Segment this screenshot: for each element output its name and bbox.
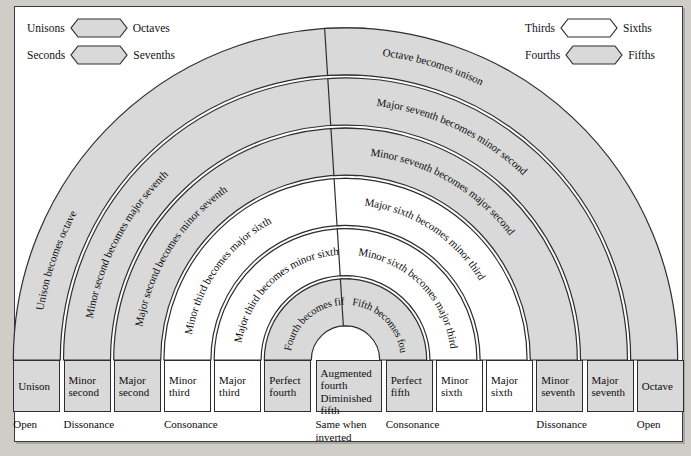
- arc-band-group: [13, 28, 677, 360]
- interval-box-0-label: Unison: [18, 380, 50, 392]
- interval-box-9-label: Majorsixth: [491, 374, 518, 398]
- interval-box-0[interactable]: Unison: [13, 360, 60, 412]
- interval-box-3-label: Minorthird: [169, 374, 197, 398]
- interval-box-3[interactable]: Minorthird: [164, 360, 211, 412]
- interval-box-4[interactable]: Majorthird: [214, 360, 261, 412]
- category-label-4: Consonance: [386, 418, 533, 431]
- interval-box-1-label: Minorsecond: [69, 374, 100, 398]
- category-label-2: Consonance: [164, 418, 311, 431]
- interval-box-11-label: Majorseventh: [592, 374, 626, 398]
- diagram-root: Unisons Octaves Seconds Sevenths Thirds …: [0, 0, 691, 456]
- interval-box-12-label: Octave: [642, 380, 673, 392]
- interval-box-4-label: Majorthird: [219, 374, 246, 398]
- interval-box-7-label: Perfectfifth: [391, 374, 422, 398]
- interval-box-6[interactable]: AugmentedfourthDiminishedfifth: [316, 360, 382, 412]
- category-label-6: Open: [637, 418, 684, 431]
- category-label-5: Dissonance: [536, 418, 633, 431]
- interval-box-10-label: Minorseventh: [541, 374, 575, 398]
- interval-box-6-label-b: Diminishedfifth: [321, 392, 372, 416]
- interval-box-10[interactable]: Minorseventh: [536, 360, 583, 412]
- interval-box-9[interactable]: Majorsixth: [486, 360, 533, 412]
- interval-box-2[interactable]: Majorsecond: [114, 360, 161, 412]
- interval-box-6-label-a: Augmentedfourth: [321, 367, 372, 391]
- interval-box-8[interactable]: Minorsixth: [436, 360, 483, 412]
- category-label-3: Same when inverted: [316, 418, 382, 443]
- interval-box-8-label: Minorsixth: [441, 374, 469, 398]
- interval-box-5[interactable]: Perfectfourth: [264, 360, 311, 412]
- category-label-0: Open: [13, 418, 60, 431]
- interval-box-1[interactable]: Minorsecond: [64, 360, 111, 412]
- interval-box-2-label: Majorsecond: [119, 374, 150, 398]
- interval-box-5-label: Perfectfourth: [269, 374, 300, 398]
- category-label-1: Dissonance: [64, 418, 161, 431]
- interval-box-11[interactable]: Majorseventh: [587, 360, 634, 412]
- interval-box-12[interactable]: Octave: [637, 360, 684, 412]
- interval-box-7[interactable]: Perfectfifth: [386, 360, 433, 412]
